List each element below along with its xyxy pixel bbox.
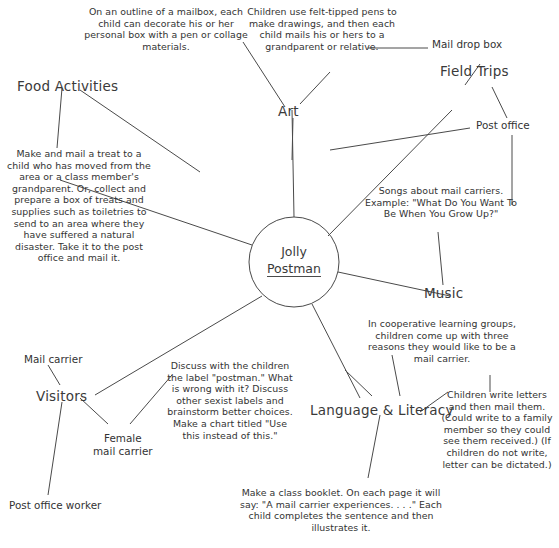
note-art-felt-pens: Children use felt-tipped pens to make dr…	[247, 6, 397, 52]
line-art-to-feltpens-note	[300, 72, 330, 104]
branch-node-food-activities[interactable]: Food Activities	[17, 78, 118, 94]
center-node-line2: Postman	[267, 261, 321, 277]
center-node-label: Jolly Postman	[252, 243, 336, 277]
branch-node-language-literacy[interactable]: Language & Literacy	[310, 402, 454, 418]
branch-node-field-trips[interactable]: Field Trips	[440, 63, 509, 79]
line-food-to-treat-note	[57, 88, 62, 148]
note-food-treat: Make and mail a treat to a child who has…	[5, 148, 153, 264]
line-fieldtrips-to-postoffice	[492, 87, 507, 118]
note-ll-cooperative: In cooperative learning groups, children…	[362, 318, 522, 364]
note-ll-booklet: Make a class booklet. On each page it wi…	[234, 487, 448, 533]
branch-node-music[interactable]: Music	[424, 285, 463, 301]
note-ll-write-letters: Children write letters and then mail the…	[438, 389, 556, 470]
line-art-to-lower	[292, 118, 293, 160]
subnode-post-office-worker[interactable]: Post office worker	[9, 499, 101, 512]
line-music-to-songs-note	[438, 232, 443, 285]
subnode-female-mail-carrier-line1: Female	[93, 432, 153, 445]
line-visitors-to-mailcarrier	[48, 365, 60, 385]
spoke-to-art	[292, 110, 294, 217]
subnode-female-mail-carrier-line2: mail carrier	[93, 445, 153, 458]
line-postoffice-across	[330, 128, 470, 150]
branch-node-visitors[interactable]: Visitors	[36, 388, 87, 404]
note-music-songs: Songs about mail carriers. Example: "Wha…	[358, 185, 524, 220]
subnode-post-office[interactable]: Post office	[476, 119, 530, 132]
line-visitors-to-worker	[48, 402, 62, 495]
spoke-to-language-literacy	[312, 304, 360, 398]
subnode-female-mail-carrier[interactable]: Female mail carrier	[93, 432, 153, 457]
line-ll-to-discuss-note	[345, 370, 372, 396]
branch-node-art[interactable]: Art	[278, 103, 299, 119]
center-node-line1: Jolly	[252, 243, 336, 260]
subnode-mail-drop-box[interactable]: Mail drop box	[432, 38, 502, 51]
note-ll-discuss: Discuss with the children the label "pos…	[166, 360, 294, 441]
subnode-mail-carrier[interactable]: Mail carrier	[24, 353, 82, 366]
concept-map-canvas: Jolly Postman Food Activities Art Field …	[0, 0, 559, 548]
note-art-mailbox: On an outline of a mailbox, each child c…	[78, 6, 254, 52]
line-ll-to-booklet-note	[368, 415, 380, 478]
